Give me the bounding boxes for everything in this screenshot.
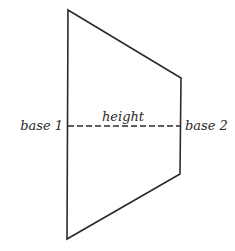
base-2-label: base 2 [185,118,228,133]
base-1-label: base 1 [20,118,63,133]
trapezoid-outline [67,10,181,239]
trapezoid-diagram: base 1 height base 2 [0,0,235,251]
height-label: height [102,109,145,124]
